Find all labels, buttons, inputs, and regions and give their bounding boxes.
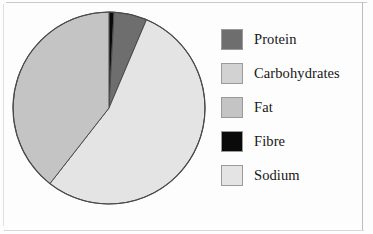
legend-item-fibre: Fibre xyxy=(221,124,366,158)
legend-swatch-carbohydrates xyxy=(221,63,243,84)
legend-swatch-sodium xyxy=(221,165,243,186)
figure-frame-top xyxy=(6,2,367,3)
pie-plot-area xyxy=(11,9,209,209)
figure-frame-bottom xyxy=(4,230,364,231)
legend-label-carbohydrates: Carbohydrates xyxy=(254,65,340,82)
legend-label-sodium: Sodium xyxy=(254,167,300,184)
legend-item-sodium: Sodium xyxy=(221,158,366,192)
legend-label-fat: Fat xyxy=(254,99,273,116)
legend-item-protein: Protein xyxy=(221,22,366,56)
legend-item-fat: Fat xyxy=(221,90,366,124)
legend-label-protein: Protein xyxy=(254,31,297,48)
pie-svg xyxy=(11,9,209,209)
legend-swatch-protein xyxy=(221,29,243,50)
pie-chart-figure: Protein Carbohydrates Fat Fibre Sodium xyxy=(0,0,373,234)
legend-label-fibre: Fibre xyxy=(254,133,285,150)
figure-frame-left xyxy=(3,4,4,226)
pie-slice-group xyxy=(13,12,205,204)
legend-swatch-fibre xyxy=(221,131,243,152)
legend-swatch-fat xyxy=(221,97,243,118)
chart-legend: Protein Carbohydrates Fat Fibre Sodium xyxy=(221,22,366,192)
legend-item-carbohydrates: Carbohydrates xyxy=(221,56,366,90)
